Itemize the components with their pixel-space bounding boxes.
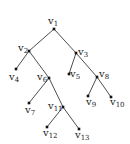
label-v2: v2 [17,42,28,55]
edge-v1-v3 [54,29,76,53]
label-v6: v6 [36,71,48,84]
node-v4 [15,68,18,71]
edge-v1-v2 [29,29,54,51]
edge-v8-v9 [88,77,97,96]
label-v9: v9 [85,96,96,109]
label-v12: v12 [42,127,58,140]
label-v4: v4 [8,71,20,84]
label-v10: v10 [109,96,125,109]
node-v1 [53,28,56,31]
node-v3 [75,52,78,55]
label-v5: v5 [69,68,80,81]
node-v8 [96,76,99,79]
label-v8: v8 [98,68,109,81]
tree-labels: v1v2v3v4v5v6v7v8v9v10v11v12v13 [8,15,125,142]
tree-diagram: v1v2v3v4v5v6v7v8v9v10v11v12v13 [0,0,130,144]
label-v13: v13 [74,129,90,142]
node-v6 [48,77,51,80]
edge-v11-v13 [63,107,79,129]
label-v1: v1 [47,15,58,28]
label-v3: v3 [77,46,88,59]
label-v7: v7 [24,104,35,117]
